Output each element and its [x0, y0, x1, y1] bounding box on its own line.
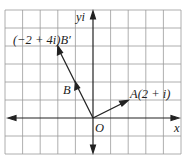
point-b-label: B [63, 84, 71, 97]
vector-oa-arrow-icon [120, 100, 129, 106]
vector-ob-arrow-icon [75, 82, 80, 90]
vector-ob-prime-arrow-icon [58, 46, 63, 55]
point-a-label: A(2 + i) [130, 88, 170, 101]
complex-plane-diagram [0, 0, 187, 162]
x-axis-left-arrow-icon [8, 116, 16, 121]
x-axis-right-arrow-icon [171, 116, 179, 121]
y-axis-label: yi [76, 11, 85, 24]
point-b-prime-label: (−2 + 4i)B′ [13, 34, 71, 47]
y-axis-down-arrow-icon [91, 145, 96, 153]
origin-label: O [95, 122, 104, 135]
x-axis-label: x [174, 122, 180, 135]
y-axis-up-arrow-icon [91, 11, 96, 19]
